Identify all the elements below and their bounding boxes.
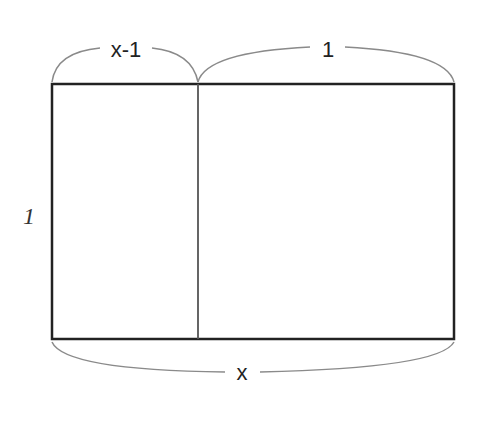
label-side-1: 1 — [23, 203, 35, 229]
brace-bottom-right — [260, 342, 454, 372]
brace-top-left-right — [152, 48, 198, 82]
area-diagram: x-1 1 1 x — [0, 0, 484, 421]
brace-top-right-right — [345, 47, 454, 82]
label-top-1: 1 — [322, 37, 334, 62]
brace-bottom-left — [52, 342, 225, 372]
brace-top-right-left — [198, 47, 310, 82]
label-x: x — [237, 360, 248, 385]
brace-top-left-left — [52, 48, 100, 82]
label-x-minus-1: x-1 — [111, 37, 142, 62]
outer-rectangle — [52, 84, 454, 339]
